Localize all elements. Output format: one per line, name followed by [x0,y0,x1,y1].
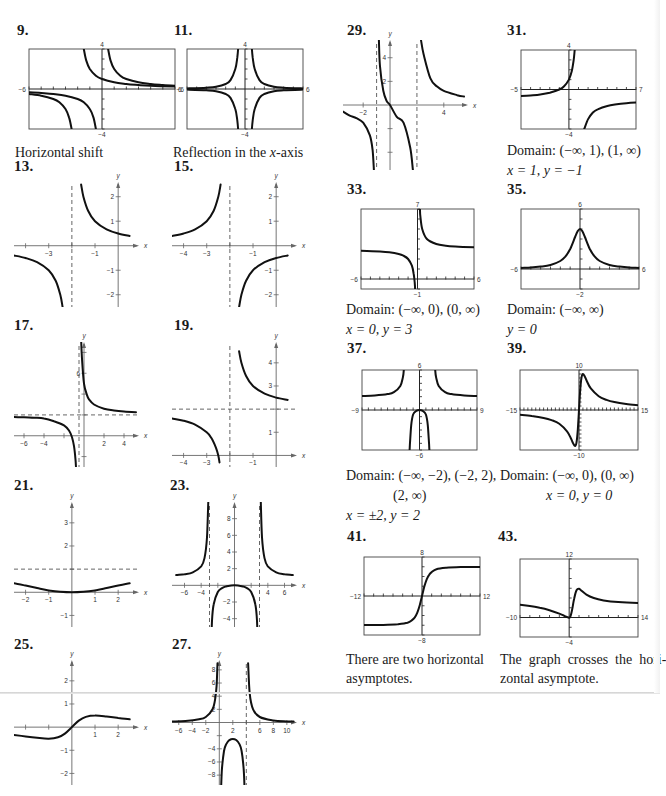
caption-37-domain: Domain: (−∞, −2), (−2, 2), [346,466,496,485]
svg-text:−1: −1 [249,459,257,466]
svg-text:12: 12 [566,551,574,558]
svg-text:3: 3 [64,519,68,526]
caption-37-domain-cont: (2, ∞) [393,486,426,505]
svg-text:2: 2 [111,193,115,200]
function-curve [176,502,208,575]
svg-text:4: 4 [269,359,273,366]
svg-text:−4: −4 [189,727,197,734]
svg-text:7: 7 [416,201,420,208]
svg-text:−4: −4 [208,745,216,752]
viewing-window-frame [520,559,638,637]
svg-text:−2: −2 [202,727,210,734]
graph-p13: xy−3−1−2−112 [0,168,153,321]
svg-text:−15: −15 [506,407,517,414]
function-curve [261,502,293,575]
function-curve [239,351,288,400]
svg-text:y: y [387,30,392,38]
function-curve [239,256,288,308]
svg-text:x: x [472,102,477,109]
caption-43-line2: zontal asymptote. [500,669,599,688]
svg-text:−2: −2 [107,291,115,298]
svg-text:y: y [81,332,86,340]
graph-p43: −101412−4 [506,545,652,651]
svg-text:y: y [274,172,279,180]
page-edge-shadow [654,0,660,693]
svg-text:−6: −6 [208,758,216,765]
svg-text:12: 12 [483,593,491,600]
svg-text:−1: −1 [107,267,115,274]
caption-9: Horizontal shift [15,143,103,162]
function-curve [81,185,130,236]
svg-text:6: 6 [477,276,481,283]
svg-text:x: x [143,589,148,596]
svg-text:2: 2 [227,565,231,572]
problem-number-39: 39. [507,340,526,357]
svg-text:−6: −6 [181,589,189,596]
svg-text:−3: −3 [203,459,211,466]
graph-p33: −667−1 [347,195,488,303]
svg-text:4: 4 [567,42,571,49]
svg-text:8: 8 [272,727,276,734]
graph-p25: xy12−2−112 [0,646,153,796]
problem-number-37: 37. [347,340,366,357]
svg-text:6: 6 [283,589,287,596]
svg-text:8: 8 [420,549,424,556]
svg-text:−6: −6 [175,727,183,734]
svg-text:−4: −4 [565,639,573,646]
function-curve [81,337,136,412]
svg-text:6: 6 [227,532,231,539]
graph-p15: xy−4−3−1−2−112 [158,168,311,321]
graph-p37: −996−6 [348,356,491,464]
graph-p35: −666−2 [507,195,653,303]
svg-text:2: 2 [116,596,120,603]
svg-text:y: y [116,172,121,180]
svg-text:2: 2 [231,727,235,734]
svg-text:−4: −4 [565,131,573,138]
function-curve [252,49,303,88]
svg-text:6: 6 [212,679,216,686]
function-curve [29,94,72,129]
caption-43-line1: The graph crosses the hori- [500,650,648,669]
svg-text:x: x [143,432,148,439]
svg-text:−4: −4 [40,440,48,447]
svg-text:−1: −1 [91,250,99,257]
svg-text:6: 6 [642,266,646,273]
svg-text:−1: −1 [60,747,68,754]
svg-text:15: 15 [641,407,649,414]
svg-text:−10: −10 [506,614,517,621]
function-curve [187,90,238,129]
graph-p29: xy−2424 [329,26,482,184]
svg-text:8: 8 [227,515,231,522]
svg-text:2: 2 [64,677,68,684]
graph-p9: −664−4 [15,35,189,143]
graph-p19: xy−4−3−1134 [158,328,311,481]
graph-p39: −151510−10 [506,356,652,464]
svg-text:x: x [301,242,306,249]
svg-text:−2: −2 [359,109,367,116]
svg-text:−6: −6 [20,440,28,447]
function-curve [14,256,63,308]
svg-text:1: 1 [64,700,68,707]
svg-text:−10: −10 [573,452,584,459]
svg-text:7: 7 [639,86,643,93]
caption-35-domain: Domain: (−∞, ∞) [507,300,604,319]
graph-p31: −574−4 [507,36,650,143]
caption-41-line1: There are two horizontal [346,650,484,669]
graph-p23: xy−6−446−4−22468 [158,488,311,641]
svg-text:−3: −3 [203,250,211,257]
svg-text:2: 2 [64,542,68,549]
function-curve [520,589,638,618]
svg-text:4: 4 [227,548,231,555]
svg-text:−4: −4 [197,589,205,596]
svg-text:9: 9 [480,407,484,414]
page-fold-line [0,692,660,694]
svg-text:6: 6 [578,201,582,208]
function-curve [172,185,221,236]
caption-31-asymptotes: x = 1, y = −1 [507,161,583,180]
svg-text:2: 2 [269,193,273,200]
svg-text:6: 6 [306,86,310,93]
svg-text:−2: −2 [223,598,231,605]
function-curve [343,112,374,171]
svg-text:−4: −4 [223,615,231,622]
caption-31-domain: Domain: (−∞, 1), (1, ∞) [507,141,641,160]
